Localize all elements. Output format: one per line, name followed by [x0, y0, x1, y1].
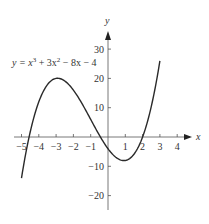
y-tick-label: 20 [94, 73, 104, 84]
x-tick-label: −2 [68, 141, 79, 152]
x-tick-label: 4 [175, 141, 180, 152]
equation-label: y = x3 + 3x2 − 8x − 4 [11, 56, 97, 68]
y-tick-label: 30 [94, 44, 104, 55]
x-axis-label: x [195, 131, 201, 142]
y-axis-label: y [104, 15, 110, 26]
x-tick-label: 1 [123, 141, 128, 152]
y-tick-label: 10 [94, 102, 104, 113]
x-tick-label: 3 [157, 141, 162, 152]
y-axis-arrow-icon [105, 31, 111, 40]
cubic-function-graph: −5−4−3−2−11234302010−10−20 x y y = x3 + … [0, 0, 209, 224]
x-tick-label: −5 [16, 141, 27, 152]
x-tick-label: −3 [51, 141, 62, 152]
y-tick-label: −10 [88, 161, 104, 172]
x-axis-arrow-icon [184, 134, 192, 140]
y-tick-label: −20 [88, 190, 104, 201]
tick-marks [22, 49, 178, 196]
x-tick-label: −1 [85, 141, 96, 152]
x-tick-label: −4 [33, 141, 44, 152]
